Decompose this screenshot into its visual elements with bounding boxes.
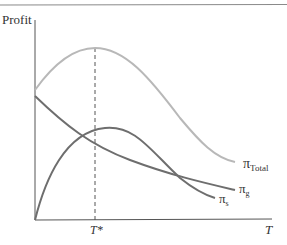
- pi-g-label: πg: [239, 181, 250, 198]
- pi-total-label: πTotal: [243, 156, 269, 173]
- t-star-label: T*: [90, 223, 103, 237]
- x-axis: [35, 219, 272, 220]
- pi-total-curve: [35, 48, 235, 162]
- top-rule: [0, 5, 287, 6]
- pi-s-curve: [35, 128, 215, 220]
- pi-s-label: πs: [219, 191, 229, 208]
- x-axis-label: T: [265, 222, 273, 237]
- chart: Profit T T* πTotal πg πs: [0, 0, 287, 245]
- pi-g-curve: [35, 96, 235, 190]
- y-axis-label: Profit: [2, 12, 32, 27]
